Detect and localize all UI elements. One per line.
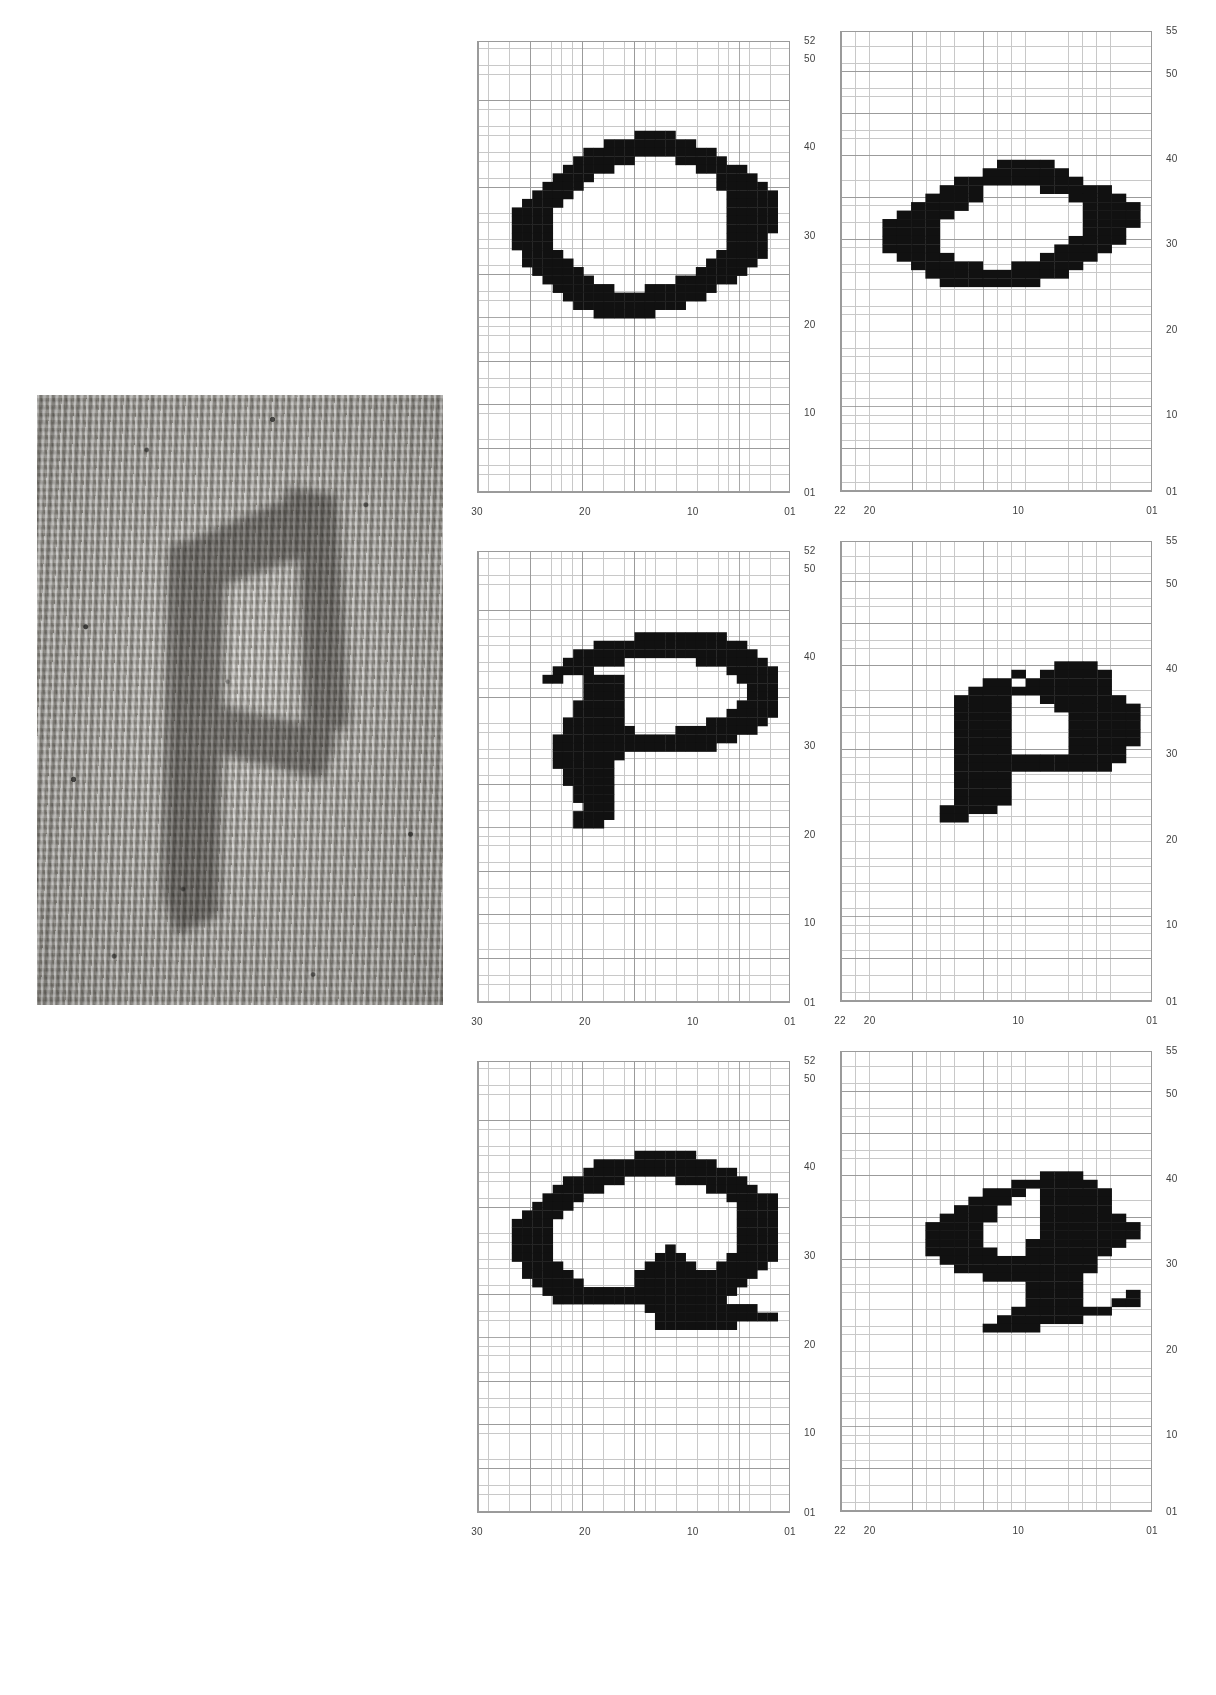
y-axis-tick-Q-40: 40 bbox=[804, 1161, 816, 1172]
x-axis-tick-q-01: 01 bbox=[1142, 1525, 1162, 1536]
x-axis-tick-o-01: 01 bbox=[1142, 505, 1162, 516]
chart-panel-p: 5550403020100122201001 bbox=[840, 541, 1152, 1002]
y-axis-tick-Q-20: 20 bbox=[804, 1339, 816, 1350]
y-axis-tick-p-10: 10 bbox=[1166, 919, 1178, 930]
x-axis-tick-Q-01: 01 bbox=[780, 1526, 800, 1537]
x-axis-tick-q-20: 20 bbox=[860, 1525, 880, 1536]
glyph-cells-O bbox=[478, 42, 790, 493]
y-axis-tick-o-20: 20 bbox=[1166, 324, 1178, 335]
chart-panel-o: 5550403020100122201001 bbox=[840, 31, 1152, 492]
x-axis-tick-O-10: 10 bbox=[683, 506, 703, 517]
y-axis-tick-O-52: 52 bbox=[804, 35, 816, 46]
x-axis-tick-P-10: 10 bbox=[683, 1016, 703, 1027]
x-axis-tick-P-01: 01 bbox=[780, 1016, 800, 1027]
glyph-cells-Q bbox=[478, 1062, 790, 1513]
x-axis-tick-o-20: 20 bbox=[860, 505, 880, 516]
x-axis-tick-Q-30: 30 bbox=[467, 1526, 487, 1537]
glyph-cells-o bbox=[841, 32, 1152, 492]
y-axis-tick-P-40: 40 bbox=[804, 651, 816, 662]
y-axis-tick-O-50: 50 bbox=[804, 53, 816, 64]
x-axis-tick-Q-20: 20 bbox=[575, 1526, 595, 1537]
chart-panel-q: 5550403020100122201001 bbox=[840, 1051, 1152, 1512]
x-axis-tick-O-01: 01 bbox=[780, 506, 800, 517]
y-axis-tick-o-10: 10 bbox=[1166, 409, 1178, 420]
y-axis-tick-Q-50: 50 bbox=[804, 1073, 816, 1084]
x-axis-tick-P-30: 30 bbox=[467, 1016, 487, 1027]
x-axis-tick-O-20: 20 bbox=[575, 506, 595, 517]
y-axis-tick-P-52: 52 bbox=[804, 545, 816, 556]
y-axis-tick-p-20: 20 bbox=[1166, 834, 1178, 845]
y-axis-tick-o-01: 01 bbox=[1166, 486, 1178, 497]
glyph-cells-p bbox=[841, 542, 1152, 1002]
y-axis-tick-P-10: 10 bbox=[804, 917, 816, 928]
y-axis-tick-o-55: 55 bbox=[1166, 25, 1178, 36]
plot-area-p bbox=[840, 541, 1152, 1002]
y-axis-tick-p-50: 50 bbox=[1166, 578, 1178, 589]
y-axis-tick-P-50: 50 bbox=[804, 563, 816, 574]
y-axis-tick-O-30: 30 bbox=[804, 230, 816, 241]
glyph-cells-P bbox=[478, 552, 790, 1003]
plot-area-Q bbox=[477, 1061, 790, 1513]
x-axis-tick-q-22: 22 bbox=[830, 1525, 850, 1536]
x-axis-tick-o-10: 10 bbox=[1008, 505, 1028, 516]
plot-area-q bbox=[840, 1051, 1152, 1512]
x-axis-tick-q-10: 10 bbox=[1008, 1525, 1028, 1536]
y-axis-tick-O-40: 40 bbox=[804, 141, 816, 152]
chart-panel-Q: 5250403020100130201001 bbox=[477, 1061, 790, 1513]
y-axis-tick-p-30: 30 bbox=[1166, 748, 1178, 759]
y-axis-tick-q-01: 01 bbox=[1166, 1506, 1178, 1517]
glyph-cells-q bbox=[841, 1052, 1152, 1512]
y-axis-tick-Q-30: 30 bbox=[804, 1250, 816, 1261]
y-axis-tick-P-01: 01 bbox=[804, 997, 816, 1008]
y-axis-tick-q-50: 50 bbox=[1166, 1088, 1178, 1099]
y-axis-tick-q-20: 20 bbox=[1166, 1344, 1178, 1355]
x-axis-tick-o-22: 22 bbox=[830, 505, 850, 516]
y-axis-tick-O-10: 10 bbox=[804, 407, 816, 418]
y-axis-tick-o-50: 50 bbox=[1166, 68, 1178, 79]
knitted-letter-p-shape bbox=[37, 395, 443, 1005]
knitted-fabric-photo bbox=[37, 395, 443, 1005]
x-axis-tick-Q-10: 10 bbox=[683, 1526, 703, 1537]
y-axis-tick-o-30: 30 bbox=[1166, 238, 1178, 249]
y-axis-tick-O-01: 01 bbox=[804, 487, 816, 498]
x-axis-tick-O-30: 30 bbox=[467, 506, 487, 517]
y-axis-tick-P-30: 30 bbox=[804, 740, 816, 751]
y-axis-tick-q-40: 40 bbox=[1166, 1173, 1178, 1184]
y-axis-tick-Q-52: 52 bbox=[804, 1055, 816, 1066]
y-axis-tick-q-55: 55 bbox=[1166, 1045, 1178, 1056]
y-axis-tick-q-10: 10 bbox=[1166, 1429, 1178, 1440]
y-axis-tick-Q-01: 01 bbox=[804, 1507, 816, 1518]
y-axis-tick-o-40: 40 bbox=[1166, 153, 1178, 164]
plot-area-O bbox=[477, 41, 790, 493]
y-axis-tick-q-30: 30 bbox=[1166, 1258, 1178, 1269]
y-axis-tick-P-20: 20 bbox=[804, 829, 816, 840]
y-axis-tick-p-55: 55 bbox=[1166, 535, 1178, 546]
chart-panel-P: 5250403020100130201001 bbox=[477, 551, 790, 1003]
y-axis-tick-p-40: 40 bbox=[1166, 663, 1178, 674]
x-axis-tick-p-10: 10 bbox=[1008, 1015, 1028, 1026]
x-axis-tick-P-20: 20 bbox=[575, 1016, 595, 1027]
x-axis-tick-p-22: 22 bbox=[830, 1015, 850, 1026]
chart-panel-O: 5250403020100130201001 bbox=[477, 41, 790, 493]
y-axis-tick-p-01: 01 bbox=[1166, 996, 1178, 1007]
x-axis-tick-p-20: 20 bbox=[860, 1015, 880, 1026]
plot-area-P bbox=[477, 551, 790, 1003]
y-axis-tick-Q-10: 10 bbox=[804, 1427, 816, 1438]
x-axis-tick-p-01: 01 bbox=[1142, 1015, 1162, 1026]
plot-area-o bbox=[840, 31, 1152, 492]
y-axis-tick-O-20: 20 bbox=[804, 319, 816, 330]
